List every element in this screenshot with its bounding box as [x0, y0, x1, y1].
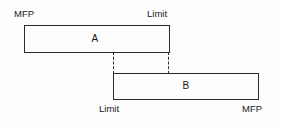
bar-b-right-endpoint-label: MFP — [242, 104, 262, 114]
bar-a-left-endpoint-label: MFP — [14, 9, 34, 19]
range-bar-b-letter: B — [179, 81, 193, 91]
dashed-connector-right — [168, 52, 169, 74]
bar-b-left-endpoint-label: Limit — [99, 104, 119, 114]
range-overlap-diagram: MFP Limit A B Limit MFP — [0, 0, 281, 126]
dashed-connector-left — [113, 52, 114, 74]
range-bar-a-letter: A — [88, 34, 102, 44]
bar-a-right-endpoint-label: Limit — [147, 9, 167, 19]
